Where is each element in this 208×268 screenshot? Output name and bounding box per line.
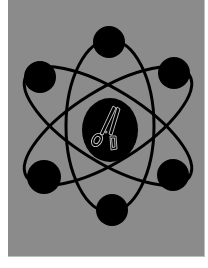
atom-illustration	[0, 0, 208, 268]
electron-bottom-left	[27, 160, 61, 194]
electron-top-left	[24, 61, 56, 93]
electron-bottom	[96, 194, 128, 226]
electron-top-right	[158, 57, 190, 89]
electron-top	[93, 26, 125, 58]
electron-bottom-right	[157, 159, 189, 191]
